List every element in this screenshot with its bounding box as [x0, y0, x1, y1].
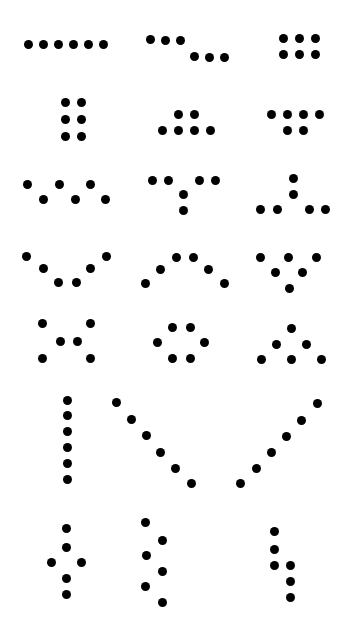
dot	[158, 536, 167, 545]
dot	[23, 180, 32, 189]
dot	[62, 524, 71, 533]
dot	[62, 590, 71, 599]
dot	[174, 126, 183, 135]
dot	[321, 205, 330, 214]
dot	[77, 98, 86, 107]
dot	[101, 195, 110, 204]
dot	[24, 40, 33, 49]
dot	[220, 53, 229, 62]
dot	[142, 551, 151, 560]
dot	[287, 355, 296, 364]
dot	[141, 279, 150, 288]
dot	[285, 284, 294, 293]
dot	[271, 268, 280, 277]
dot	[171, 464, 180, 473]
dot	[158, 598, 167, 607]
dot	[287, 324, 296, 333]
dot	[69, 40, 78, 49]
dot	[99, 40, 108, 49]
dot	[38, 354, 47, 363]
dot	[298, 268, 307, 277]
dot	[190, 110, 199, 119]
dot	[313, 399, 322, 408]
dot	[61, 132, 70, 141]
dot	[102, 252, 111, 261]
dot	[54, 278, 63, 287]
dot	[63, 427, 72, 436]
dot	[187, 479, 196, 488]
dot	[39, 40, 48, 49]
dot	[156, 448, 165, 457]
dot	[47, 558, 56, 567]
dot	[312, 253, 321, 262]
dot	[282, 432, 291, 441]
dot	[299, 110, 308, 119]
dot	[236, 479, 245, 488]
dot	[158, 567, 167, 576]
dot	[141, 582, 150, 591]
dot	[272, 340, 281, 349]
dot	[77, 558, 86, 567]
dot	[205, 53, 214, 62]
dot	[72, 278, 81, 287]
dot	[256, 205, 265, 214]
dot	[148, 176, 157, 185]
dot	[71, 195, 80, 204]
dot	[86, 319, 95, 328]
dot	[179, 206, 188, 215]
dot	[63, 443, 72, 452]
dot	[289, 190, 298, 199]
dot	[84, 40, 93, 49]
dot	[73, 337, 82, 346]
dot	[284, 253, 293, 262]
dot	[190, 52, 199, 61]
dot	[86, 354, 95, 363]
dot	[195, 176, 204, 185]
dot	[179, 190, 188, 199]
dot	[305, 205, 314, 214]
dot	[289, 174, 298, 183]
dot	[62, 574, 71, 583]
dot	[63, 411, 72, 420]
dot-pattern-sheet	[0, 0, 355, 638]
dot	[112, 398, 121, 407]
dot	[161, 36, 170, 45]
dot	[295, 50, 304, 59]
dot	[186, 323, 195, 332]
dot	[270, 527, 279, 536]
dot	[273, 205, 282, 214]
dot	[158, 126, 167, 135]
dot	[220, 279, 229, 288]
dot	[55, 180, 64, 189]
dot	[252, 464, 261, 473]
dot	[62, 543, 71, 552]
dot	[39, 264, 48, 273]
dot	[270, 561, 279, 570]
dot	[86, 180, 95, 189]
dot	[86, 264, 95, 273]
dot	[174, 110, 183, 119]
dot	[186, 354, 195, 363]
dot	[38, 319, 47, 328]
dot	[190, 126, 199, 135]
dot	[299, 126, 308, 135]
dot	[315, 110, 324, 119]
dot	[311, 50, 320, 59]
dot	[286, 561, 295, 570]
dot	[22, 252, 31, 261]
dot	[200, 338, 209, 347]
dot	[206, 126, 215, 135]
dot	[279, 50, 288, 59]
dot	[164, 176, 173, 185]
dot	[302, 340, 311, 349]
dot	[61, 98, 70, 107]
dot	[256, 253, 265, 262]
dot	[286, 593, 295, 602]
dot	[267, 448, 276, 457]
dot	[142, 431, 151, 440]
dot	[168, 323, 177, 332]
dot	[204, 265, 213, 274]
dot	[176, 36, 185, 45]
dot	[153, 338, 162, 347]
dot	[63, 396, 72, 405]
